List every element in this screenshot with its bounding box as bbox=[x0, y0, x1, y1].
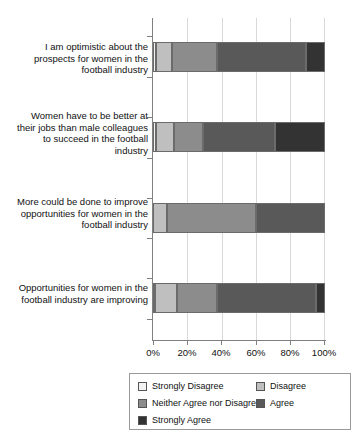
bar-segment bbox=[306, 42, 325, 72]
bar-segment bbox=[167, 203, 256, 233]
x-axis-line bbox=[152, 340, 326, 341]
x-axis-tick-80 bbox=[290, 340, 291, 345]
legend-swatch-icon bbox=[138, 416, 147, 425]
y-axis-tick-3b bbox=[147, 319, 152, 320]
legend-item-strongly-disagree[interactable]: Strongly Disagree bbox=[138, 381, 224, 391]
bar-segment bbox=[174, 122, 203, 152]
stacked-bar-chart: 0% 20% 40% 60% 80% 100% I am optimistic … bbox=[0, 0, 363, 447]
x-axis-label-100: 100% bbox=[304, 347, 344, 358]
table-row bbox=[153, 283, 325, 313]
category-label-1: Women have to be better at their jobs th… bbox=[10, 110, 148, 156]
x-axis-tick-20 bbox=[187, 340, 188, 345]
bar-segment bbox=[172, 42, 217, 72]
bar-segment bbox=[256, 203, 325, 233]
bar-segment bbox=[316, 283, 325, 313]
legend-label: Agree bbox=[270, 398, 294, 408]
bar-segment bbox=[217, 283, 317, 313]
legend-swatch-icon bbox=[138, 382, 147, 391]
legend-item-disagree[interactable]: Disagree bbox=[256, 381, 306, 391]
legend-item-neither-agree-nor-disagree[interactable]: Neither Agree nor Disagree bbox=[138, 398, 261, 408]
bar-segment bbox=[177, 283, 217, 313]
bar-segment bbox=[275, 122, 325, 152]
bar-segment bbox=[217, 42, 306, 72]
y-axis-tick-2b bbox=[147, 238, 152, 239]
x-axis-tick-40 bbox=[221, 340, 222, 345]
legend-swatch-icon bbox=[256, 399, 265, 408]
chart-legend: Strongly Disagree Neither Agree nor Disa… bbox=[129, 373, 351, 430]
legend-swatch-icon bbox=[256, 382, 265, 391]
category-label-2: More could be done to improve opportunit… bbox=[10, 196, 148, 231]
legend-item-strongly-agree[interactable]: Strongly Agree bbox=[138, 415, 211, 425]
bar-segment bbox=[156, 42, 171, 72]
x-axis-tick-0 bbox=[153, 340, 154, 345]
y-axis-tick-0 bbox=[147, 36, 152, 37]
bar-segment bbox=[155, 283, 177, 313]
x-axis-label-40: 40% bbox=[201, 347, 241, 358]
y-axis-tick-0b bbox=[147, 77, 152, 78]
table-row bbox=[153, 122, 325, 152]
category-label-0: I am optimistic about the prospects for … bbox=[10, 41, 148, 76]
table-row bbox=[153, 42, 325, 72]
legend-item-agree[interactable]: Agree bbox=[256, 398, 294, 408]
y-axis-tick-1b bbox=[147, 158, 152, 159]
legend-label: Strongly Agree bbox=[152, 415, 211, 425]
legend-swatch-icon bbox=[138, 399, 147, 408]
x-axis-tick-60 bbox=[256, 340, 257, 345]
legend-label: Neither Agree nor Disagree bbox=[152, 398, 261, 408]
y-axis-tick-3 bbox=[147, 278, 152, 279]
table-row bbox=[153, 203, 325, 233]
plot-area: 0% 20% 40% 60% 80% 100% I am optimistic … bbox=[0, 0, 363, 360]
bar-segment bbox=[203, 122, 275, 152]
bar-segment bbox=[156, 122, 173, 152]
legend-label: Strongly Disagree bbox=[152, 381, 224, 391]
category-label-3: Opportunities for women in the football … bbox=[10, 282, 148, 305]
legend-label: Disagree bbox=[270, 381, 306, 391]
x-axis-tick-100 bbox=[324, 340, 325, 345]
bar-segment bbox=[153, 203, 167, 233]
